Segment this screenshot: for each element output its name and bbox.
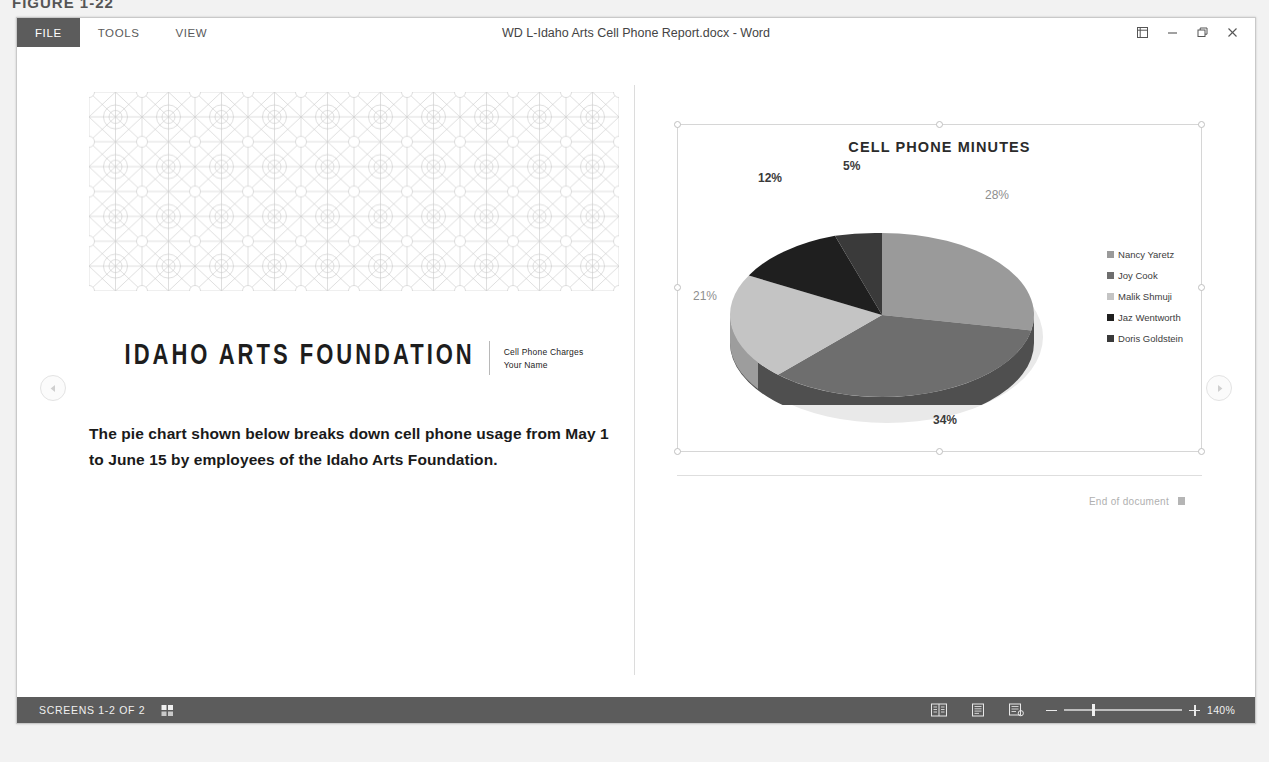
masthead-divider: [489, 341, 490, 375]
screens-indicator[interactable]: SCREENS 1-2 OF 2: [39, 704, 145, 716]
pie-chart-plot-area[interactable]: 28% 34% 21% 12% 5%: [688, 165, 1078, 440]
chart-object[interactable]: CELL PHONE MINUTES: [677, 124, 1202, 452]
end-of-document-label: End of document: [1089, 496, 1169, 507]
legend-item-joy-cook[interactable]: Joy Cook: [1107, 270, 1183, 281]
legend-item-nancy-yaretz[interactable]: Nancy Yaretz: [1107, 249, 1183, 260]
proofing-errors-icon[interactable]: [161, 704, 174, 717]
legend-swatch-icon: [1107, 314, 1114, 321]
data-label-malik-shmuji: 21%: [693, 289, 717, 303]
chart-legend[interactable]: Nancy Yaretz Joy Cook Malik Shmuji Jaz W…: [1107, 249, 1183, 344]
legend-item-doris-goldstein[interactable]: Doris Goldstein: [1107, 333, 1183, 344]
word-application-window: FILE TOOLS VIEW WD L-Idaho Arts Cell Pho…: [16, 17, 1256, 724]
tab-tools[interactable]: TOOLS: [80, 18, 158, 47]
chevron-right-icon: [1214, 383, 1225, 394]
end-of-document-marker-icon: [1178, 497, 1185, 505]
chart-title: CELL PHONE MINUTES: [678, 139, 1201, 155]
selection-handle-bottom-right[interactable]: [1198, 448, 1205, 455]
legend-label: Jaz Wentworth: [1118, 312, 1181, 323]
read-mode-document-area: IDAHO ARTS FOUNDATION Cell Phone Charges…: [17, 47, 1255, 697]
selection-handle-middle-right[interactable]: [1198, 284, 1205, 291]
status-bar-right: 140%: [931, 703, 1255, 717]
selection-handle-middle-left[interactable]: [674, 284, 681, 291]
minimize-icon[interactable]: [1157, 20, 1187, 46]
data-label-joy-cook: 34%: [933, 413, 957, 427]
legend-label: Joy Cook: [1118, 270, 1158, 281]
data-label-doris-goldstein: 5%: [843, 159, 860, 173]
legend-item-jaz-wentworth[interactable]: Jaz Wentworth: [1107, 312, 1183, 323]
pie-slices: [730, 233, 1034, 397]
selection-handle-bottom-center[interactable]: [936, 448, 943, 455]
restore-icon[interactable]: [1187, 20, 1217, 46]
selection-handle-bottom-left[interactable]: [674, 448, 681, 455]
zoom-out-button[interactable]: [1046, 705, 1057, 716]
data-label-jaz-wentworth: 12%: [758, 171, 782, 185]
view-mode-buttons: [931, 703, 1024, 717]
legend-swatch-icon: [1107, 272, 1114, 279]
document-page-left: IDAHO ARTS FOUNDATION Cell Phone Charges…: [89, 92, 619, 472]
masthead-subtitle: Cell Phone Charges Your Name: [504, 341, 584, 372]
pie-slice-nancy-yaretz: [882, 233, 1034, 330]
legend-label: Nancy Yaretz: [1118, 249, 1174, 260]
legend-label: Doris Goldstein: [1118, 333, 1183, 344]
document-masthead: IDAHO ARTS FOUNDATION Cell Phone Charges…: [89, 341, 619, 375]
zoom-slider-thumb[interactable]: [1092, 704, 1095, 716]
title-bar: FILE TOOLS VIEW WD L-Idaho Arts Cell Pho…: [17, 18, 1255, 47]
tab-file[interactable]: FILE: [17, 18, 80, 47]
column-divider: [634, 85, 635, 675]
zoom-in-button[interactable]: [1189, 705, 1200, 716]
zoom-level-label[interactable]: 140%: [1207, 704, 1237, 716]
next-screen-button[interactable]: [1206, 375, 1232, 401]
read-mode-tab-bar: FILE TOOLS VIEW: [17, 18, 225, 47]
legend-label: Malik Shmuji: [1118, 291, 1172, 302]
masthead-subtitle-line1: Cell Phone Charges: [504, 346, 584, 359]
zoom-control[interactable]: 140%: [1046, 704, 1237, 716]
figure-caption: FIGURE 1-22: [12, 0, 114, 10]
pie-chart-svg: [688, 165, 1078, 440]
decorative-pattern-image[interactable]: [89, 92, 619, 291]
tab-view[interactable]: VIEW: [157, 18, 225, 47]
window-controls: [1127, 18, 1247, 47]
print-layout-icon[interactable]: [971, 703, 985, 717]
ribbon-display-options-icon[interactable]: [1127, 20, 1157, 46]
close-icon[interactable]: [1217, 20, 1247, 46]
zoom-slider[interactable]: [1064, 709, 1182, 711]
masthead-title: IDAHO ARTS FOUNDATION: [125, 337, 475, 369]
previous-screen-button[interactable]: [40, 375, 66, 401]
legend-swatch-icon: [1107, 251, 1114, 258]
legend-swatch-icon: [1107, 335, 1114, 342]
web-layout-icon[interactable]: [1009, 703, 1024, 717]
status-bar: SCREENS 1-2 OF 2: [17, 697, 1255, 723]
selection-handle-top-right[interactable]: [1198, 121, 1205, 128]
paragraph-rule: [677, 475, 1202, 476]
legend-swatch-icon: [1107, 293, 1114, 300]
legend-item-malik-shmuji[interactable]: Malik Shmuji: [1107, 291, 1183, 302]
read-mode-icon[interactable]: [931, 703, 947, 717]
data-label-nancy-yaretz: 28%: [985, 188, 1009, 202]
masthead-subtitle-line2: Your Name: [504, 359, 584, 372]
selection-handle-top-center[interactable]: [936, 121, 943, 128]
status-bar-left: SCREENS 1-2 OF 2: [17, 704, 174, 717]
document-body-paragraph[interactable]: The pie chart shown below breaks down ce…: [89, 421, 609, 472]
selection-handle-top-left[interactable]: [674, 121, 681, 128]
chevron-left-icon: [48, 383, 59, 394]
